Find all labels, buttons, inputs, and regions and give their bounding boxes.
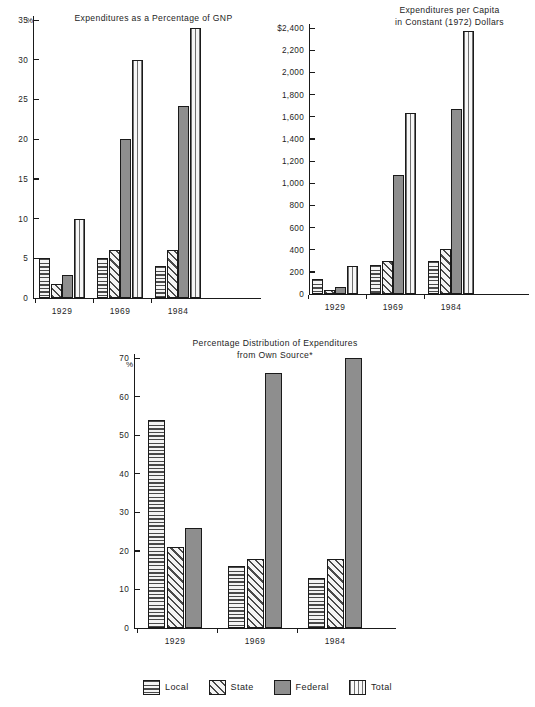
x-axis-tick-label-1929: 1929 [52,306,73,316]
y-axis-tick [310,205,315,206]
x-axis-line [33,298,261,299]
bar-local-1969 [97,258,108,298]
x-axis-tick [297,629,298,633]
bar-federal-1969 [393,175,404,294]
bar-federal-1969 [120,139,131,298]
bar-total-1984 [463,31,474,294]
bar-total-1969 [405,113,416,294]
y-axis-tick [310,249,315,250]
y-axis-tick-label: 0 [270,290,304,299]
legend-label: Federal [296,682,329,692]
legend-item-local[interactable]: Local [143,680,189,695]
bar-state-1929 [167,547,184,628]
y-axis-tick-label: 400 [270,245,304,254]
x-axis-tick [137,629,138,633]
x-axis-tick [308,295,309,299]
bar-total-1984 [190,28,201,298]
y-axis-tick-label: 70 [105,354,129,363]
y-axis-tick [310,50,315,51]
bar-local-1929 [39,258,50,298]
legend-label: Total [371,682,392,692]
y-axis-tick [310,183,315,184]
y-axis-tick [34,20,39,21]
chart-legend: LocalStateFederalTotal [0,672,535,702]
bar-state-1984 [167,250,178,298]
bar-state-1929 [324,290,335,294]
y-axis-tick [34,258,39,259]
bar-state-1969 [382,261,393,294]
x-axis-tick-label-1984: 1984 [441,302,462,312]
bar-federal-1929 [62,275,73,298]
y-axis-tick-label: 10 [4,214,28,223]
y-axis-tick [310,138,315,139]
bar-state-1984 [327,559,344,628]
chart-percapita: Expenditures per Capita in Constant (197… [267,0,535,330]
bar-state-1969 [247,559,264,628]
total-swatch-icon [349,680,366,695]
x-axis-tick-label-1969: 1969 [383,302,404,312]
y-axis-tick [135,435,140,436]
y-axis-tick-label: 30 [105,508,129,517]
chart-gnp-title: Expenditures as a Percentage of GNP [46,13,261,25]
y-axis-tick [135,473,140,474]
y-axis-tick-label: 1,200 [270,157,304,166]
federal-swatch-icon [274,680,291,695]
y-axis-tick-label: 20 [4,135,28,144]
y-axis-tick [135,512,140,513]
y-axis-tick [135,589,140,590]
y-axis-tick [310,94,315,95]
y-axis-tick [310,161,315,162]
y-axis-tick-label: 600 [270,223,304,232]
y-axis-tick-label: 15 [4,174,28,183]
y-axis-tick [135,396,140,397]
bar-local-1929 [148,420,165,628]
legend-item-federal[interactable]: Federal [274,680,329,695]
y-axis-tick-label: 50 [105,431,129,440]
bar-local-1984 [428,261,439,294]
y-axis-tick-label: 0 [4,294,28,303]
bar-local-1969 [370,265,381,294]
x-axis-tick [151,299,152,303]
chart-percapita-title: Expenditures per Capita in Constant (197… [367,5,532,28]
bar-federal-1984 [451,109,462,294]
y-axis-tick-label: 1,000 [270,179,304,188]
y-axis-tick-label: 1,800 [270,90,304,99]
x-axis-tick-label-1984: 1984 [168,306,189,316]
x-axis-tick [35,299,36,303]
x-axis-tick [366,295,367,299]
bar-federal-1969 [265,373,282,628]
legend-label: State [231,682,254,692]
x-axis-tick-label-1969: 1969 [110,306,131,316]
x-axis-tick-label-1929: 1929 [325,302,346,312]
x-axis-tick-label-1929: 1929 [165,636,186,646]
chart-distribution: Percentage Distribution of Expenditures … [100,336,430,666]
bar-total-1969 [132,60,143,298]
legend-item-state[interactable]: State [209,680,254,695]
state-swatch-icon [209,680,226,695]
x-axis-line [309,294,529,295]
bar-local-1929 [312,279,323,294]
bar-total-1929 [347,266,358,294]
y-axis-tick [34,139,39,140]
y-axis-tick-label: 1,400 [270,134,304,143]
bar-federal-1929 [185,528,202,628]
x-axis-tick-label-1984: 1984 [325,636,346,646]
y-axis-tick-label: 40 [105,469,129,478]
bar-federal-1984 [178,106,189,298]
bar-state-1929 [51,284,62,298]
y-axis-tick [310,28,315,29]
bar-total-1929 [74,219,85,298]
y-axis-tick-label: 5 [4,254,28,263]
y-axis-tick-label: 10 [105,585,129,594]
legend-label: Local [165,682,189,692]
x-axis-tick-label-1969: 1969 [245,636,266,646]
bar-local-1984 [155,266,166,298]
y-axis-tick [34,59,39,60]
y-axis-tick [310,72,315,73]
y-axis-tick-label: 2,200 [270,46,304,55]
y-axis-tick-label: 25 [4,95,28,104]
y-axis-line [309,24,310,294]
legend-item-total[interactable]: Total [349,680,392,695]
bar-local-1984 [308,578,325,628]
y-axis-tick [34,178,39,179]
